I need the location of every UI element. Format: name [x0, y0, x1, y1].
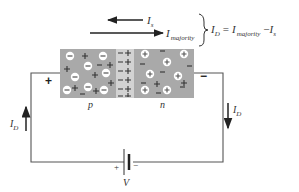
donor-ion-icon — [163, 58, 171, 66]
acceptor-ion-icon — [84, 83, 92, 91]
right-terminal-minus: − — [200, 69, 207, 83]
p-region-label: p — [87, 99, 93, 110]
donor-ion-icon — [141, 86, 149, 94]
id-left-label: ID — [9, 118, 18, 132]
donor-ion-icon — [174, 72, 182, 80]
imajority-label: Imajority — [165, 27, 195, 42]
acceptor-ion-icon — [84, 62, 92, 70]
equation: ID=Imajority−Is — [210, 23, 276, 38]
id-right-label: ID — [232, 104, 241, 118]
donor-ion-icon — [141, 50, 149, 58]
diode-diagram: Is Imajority ID=Imajority−Is — [0, 0, 299, 192]
donor-ion-icon — [180, 50, 188, 58]
battery-minus: − — [133, 160, 138, 170]
acceptor-ion-icon — [66, 52, 74, 60]
donor-ion-icon — [163, 86, 171, 94]
pn-junction-block — [60, 49, 194, 98]
acceptor-ion-icon — [71, 73, 79, 81]
n-region-label: n — [160, 99, 165, 110]
donor-ion-icon — [146, 70, 154, 78]
depletion-region — [116, 49, 134, 98]
acceptor-ion-icon — [102, 69, 110, 77]
brace — [199, 14, 208, 46]
acceptor-ion-icon — [99, 52, 107, 60]
is-label: Is — [146, 14, 154, 29]
acceptor-ion-icon — [100, 86, 108, 94]
battery-plus: + — [114, 162, 119, 172]
battery-icon — [124, 149, 129, 175]
left-terminal-plus: + — [45, 74, 52, 88]
acceptor-ion-icon — [63, 86, 71, 94]
battery-voltage-label: V — [123, 177, 131, 188]
